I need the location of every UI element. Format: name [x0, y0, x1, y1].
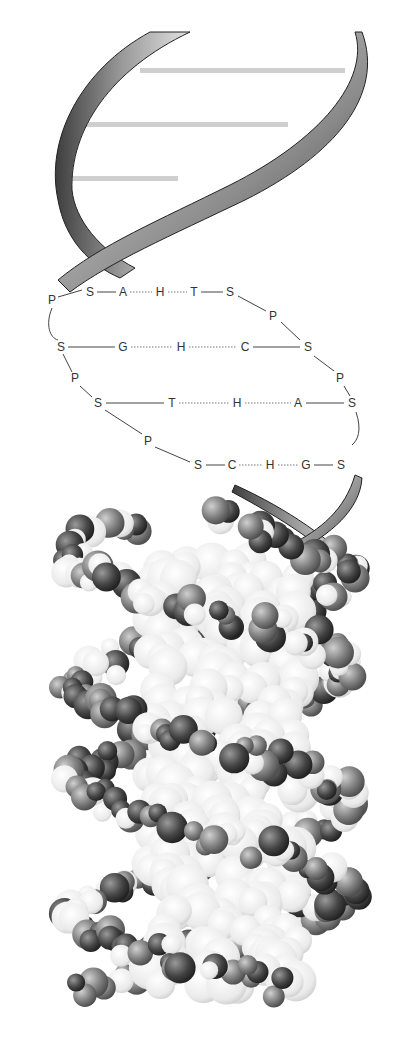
atom-sphere — [164, 952, 195, 983]
atom-sphere — [305, 857, 328, 880]
schematic-letter-s: S — [348, 396, 356, 410]
atom-sphere — [240, 847, 262, 869]
schematic-letter-s: S — [94, 396, 102, 410]
schematic-letter-c: C — [228, 458, 237, 472]
schematic-letter-s: S — [86, 285, 94, 299]
schematic-letter-h: H — [266, 458, 275, 472]
schematic-letter-t: T — [190, 285, 198, 299]
schematic-letter-h: H — [233, 396, 242, 410]
chemical-schematic — [49, 290, 359, 465]
schematic-letter-s: S — [194, 458, 202, 472]
atom-sphere — [238, 955, 258, 975]
schematic-letter-s: S — [337, 458, 345, 472]
atom-sphere — [271, 967, 293, 989]
atom-sphere — [238, 514, 264, 540]
atom-sphere — [200, 961, 218, 979]
base-pair-rung — [78, 122, 288, 127]
schematic-letter-c: C — [241, 340, 250, 354]
atom-sphere — [106, 665, 126, 685]
atom-sphere — [92, 563, 121, 592]
atom-sphere — [67, 973, 85, 991]
schematic-letter-h: H — [177, 340, 186, 354]
schematic-letter-p: P — [48, 293, 56, 307]
base-pair-rung — [58, 176, 178, 181]
atom-sphere — [283, 631, 308, 656]
schematic-letter-h: H — [156, 285, 165, 299]
space-filling-model — [49, 496, 372, 1007]
ribbon-helix — [55, 32, 367, 292]
atom-sphere — [133, 593, 154, 614]
atom-sphere — [200, 825, 229, 854]
schematic-labels: PSAHTSPSGHCSPPSTHASPSCHGS — [48, 285, 356, 472]
atom-sphere — [258, 825, 289, 856]
schematic-letter-g: G — [301, 458, 310, 472]
schematic-letter-s: S — [304, 340, 312, 354]
schematic-letter-p: P — [144, 434, 152, 448]
atom-sphere — [337, 559, 361, 583]
schematic-letter-a: A — [294, 396, 302, 410]
atom-sphere — [263, 986, 285, 1008]
schematic-letter-a: A — [119, 285, 127, 299]
atom-sphere — [189, 730, 215, 756]
atom-sphere — [161, 934, 181, 954]
base-pair-rung — [140, 68, 345, 73]
atom-sphere — [202, 496, 230, 524]
schematic-letter-p: P — [71, 371, 79, 385]
atom-sphere — [87, 782, 106, 801]
schematic-letter-p: P — [336, 371, 344, 385]
atom-sphere — [219, 743, 249, 773]
schematic-letter-s: S — [57, 340, 65, 354]
schematic-letter-g: G — [118, 340, 127, 354]
dna-illustration: PSAHTSPSGHCSPPSTHASPSCHGS — [0, 0, 405, 1052]
schematic-letter-p: P — [269, 309, 277, 323]
atom-sphere — [209, 600, 229, 620]
atom-sphere — [184, 604, 206, 626]
atom-sphere — [156, 812, 187, 843]
atom-sphere — [252, 602, 279, 629]
atom-sphere — [316, 585, 337, 606]
schematic-letter-t: T — [168, 396, 176, 410]
schematic-letter-s: S — [226, 285, 234, 299]
